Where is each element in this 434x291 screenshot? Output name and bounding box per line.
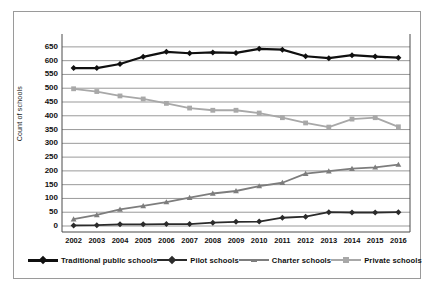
legend-label: Traditional public schools xyxy=(61,256,157,265)
data-point-marker xyxy=(349,52,355,58)
data-point-marker xyxy=(140,221,146,227)
data-point-marker xyxy=(303,214,309,220)
data-point-marker xyxy=(163,49,169,55)
data-point-marker xyxy=(71,86,76,91)
legend-swatch-diamond-icon xyxy=(157,256,187,265)
data-point-marker xyxy=(187,106,192,111)
chart-figure: Count of schools 05010015020025030035040… xyxy=(13,11,421,279)
data-point-marker xyxy=(117,61,123,67)
data-point-marker xyxy=(256,219,262,225)
data-point-marker xyxy=(94,222,100,228)
axis-lines xyxy=(62,34,410,232)
legend-swatch-square-icon xyxy=(331,256,361,265)
data-point-marker xyxy=(373,115,378,120)
data-point-marker xyxy=(233,219,239,225)
data-point-marker xyxy=(210,108,215,113)
legend-item[interactable]: Charter schools xyxy=(239,256,331,265)
data-point-marker xyxy=(140,54,146,60)
data-point-marker xyxy=(257,111,262,116)
legend-label: Pilot schools xyxy=(190,256,239,265)
legend-label: Private schools xyxy=(364,256,422,265)
data-point-marker xyxy=(396,124,401,129)
legend-item[interactable]: Private schools xyxy=(331,256,422,265)
data-series xyxy=(71,46,402,71)
gridlines xyxy=(62,47,410,226)
legend-swatch-diamond-icon xyxy=(28,256,58,265)
data-point-marker xyxy=(303,121,308,126)
plot-area: Count of schools 05010015020025030035040… xyxy=(14,12,420,278)
data-point-marker xyxy=(234,108,239,113)
legend-item[interactable]: Traditional public schools xyxy=(28,256,157,265)
data-point-marker xyxy=(326,55,332,61)
data-point-marker xyxy=(94,65,100,71)
data-point-marker xyxy=(94,89,99,94)
data-point-marker xyxy=(372,209,378,215)
data-point-marker xyxy=(280,115,285,120)
data-point-marker xyxy=(279,47,285,53)
data-point-marker xyxy=(326,209,332,215)
data-point-marker xyxy=(395,209,401,215)
legend-label: Charter schools xyxy=(272,256,331,265)
data-series xyxy=(71,86,401,129)
data-point-marker xyxy=(210,220,216,226)
legend-swatch-triangle-icon xyxy=(239,256,269,265)
legend-item[interactable]: Pilot schools xyxy=(157,256,239,265)
data-point-marker xyxy=(118,94,123,99)
data-point-marker xyxy=(141,97,146,102)
chart-legend: Traditional public schoolsPilot schoolsC… xyxy=(22,249,414,271)
data-point-marker xyxy=(71,222,77,228)
data-point-marker xyxy=(350,117,355,122)
data-point-marker xyxy=(279,215,285,221)
data-point-marker xyxy=(187,50,193,56)
chart-plot-svg xyxy=(14,12,422,280)
data-point-marker xyxy=(71,65,77,71)
data-point-marker xyxy=(372,54,378,60)
data-series-layer xyxy=(71,46,402,229)
data-point-marker xyxy=(395,55,401,61)
data-point-marker xyxy=(233,50,239,56)
data-point-marker xyxy=(326,125,331,130)
data-point-marker xyxy=(210,49,216,55)
data-point-marker xyxy=(117,221,123,227)
data-point-marker xyxy=(303,53,309,59)
data-point-marker xyxy=(164,101,169,106)
data-point-marker xyxy=(349,209,355,215)
